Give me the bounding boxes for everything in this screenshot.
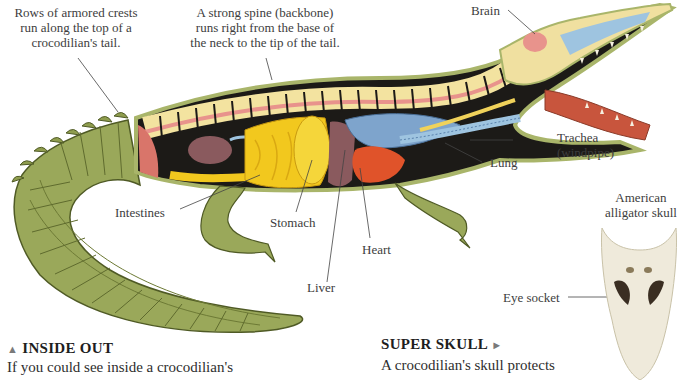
caption-line: Rows of armored crests (6, 5, 146, 20)
label-eye-socket: Eye socket (503, 290, 560, 305)
super-skull-heading: SUPER SKULL ► (381, 336, 503, 353)
label-liver: Liver (307, 280, 335, 295)
caption-line: run along the top of a (6, 20, 146, 35)
label-skull-title: American alligator skull (596, 190, 679, 220)
heading-text: INSIDE OUT (22, 340, 113, 356)
triangle-right-icon: ► (491, 339, 502, 351)
label-intestines: Intestines (115, 205, 165, 220)
label-brain: Brain (471, 3, 500, 18)
caption-spine: A strong spine (backbone) runs right fro… (180, 5, 350, 50)
label-lung: Lung (490, 155, 517, 170)
label-trachea: Trachea (windpipe) (557, 130, 614, 160)
caption-line: A strong spine (backbone) (180, 5, 350, 20)
label-line: Trachea (557, 130, 614, 145)
caption-line: crocodilian's tail. (6, 35, 146, 50)
label-stomach: Stomach (270, 215, 316, 230)
caption-armored-crests: Rows of armored crests run along the top… (6, 5, 146, 50)
super-skull-text: A crocodilian's skull protects (381, 357, 555, 374)
alligator-skull (601, 228, 676, 380)
triangle-up-icon: ▲ (7, 343, 18, 355)
label-line: alligator skull (596, 205, 679, 220)
caption-line: the neck to the tip of the tail. (180, 35, 350, 50)
label-heart: Heart (362, 242, 391, 257)
caption-line: runs right from the base of (180, 20, 350, 35)
inside-out-text: If you could see inside a crocodilian's (7, 359, 233, 376)
crocodile-anatomy-illustration (0, 0, 679, 380)
label-line: (windpipe) (557, 145, 614, 160)
label-line: American (596, 190, 679, 205)
inside-out-heading: ▲ INSIDE OUT (7, 340, 113, 357)
heading-text: SUPER SKULL (381, 336, 487, 352)
